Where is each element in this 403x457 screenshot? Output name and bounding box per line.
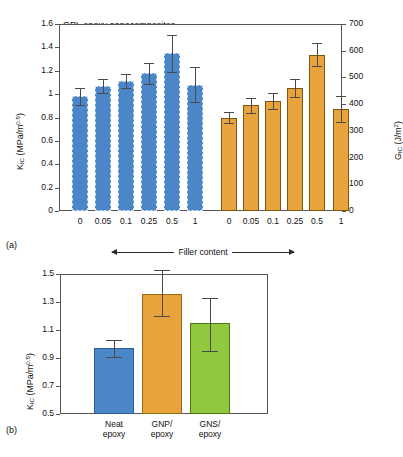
y-axis-tick-label: 0.7 xyxy=(20,381,54,390)
error-bar-cap-bottom xyxy=(190,102,200,103)
error-bar-cap-bottom xyxy=(75,105,85,106)
y2-axis-tick-label: 0 xyxy=(349,206,383,215)
chart-panel-a: GPL epoxy nanocomposites KIC (MPa/m0.5) … xyxy=(0,0,402,250)
error-bar-cap-top xyxy=(121,74,131,75)
error-bar-cap-top xyxy=(75,88,85,89)
filler-arrow-left-icon xyxy=(112,252,174,253)
bar-blue xyxy=(72,96,88,211)
error-bar-cap-top xyxy=(154,270,170,271)
error-bar-cap-top xyxy=(190,67,200,68)
y-axis-tick-label: 1.3 xyxy=(20,297,54,306)
y2-axis-label-tail: ) xyxy=(393,121,403,124)
bar-blue xyxy=(118,81,134,211)
error-bar-cap-bottom xyxy=(144,84,154,85)
y2-axis-tick-mark xyxy=(342,51,346,52)
x-axis-tick-label: GNS/epoxy xyxy=(186,420,234,440)
bar-orange xyxy=(309,55,325,211)
y-axis-tick-mark xyxy=(55,164,59,165)
error-bar-line xyxy=(114,340,115,357)
y-axis-tick-mark xyxy=(56,274,60,275)
bar-orange xyxy=(221,118,237,212)
error-bar-cap-bottom xyxy=(290,97,300,98)
filler-arrow-right-icon xyxy=(232,252,294,253)
y-axis-tick-mark xyxy=(55,211,59,212)
error-bar-line xyxy=(295,79,296,98)
error-bar-cap-bottom xyxy=(167,72,177,73)
y-axis-tick-label: 0.6 xyxy=(19,136,53,145)
filler-content-label: Filler content xyxy=(178,247,227,257)
y-axis-tick-label: 1 xyxy=(19,89,53,98)
y-axis-tick-label: 0.9 xyxy=(20,353,54,362)
chart-a-x-axis-label: Filler content xyxy=(78,247,328,257)
error-bar-cap-top xyxy=(98,79,108,80)
y-axis-tick-label: 1.1 xyxy=(20,325,54,334)
bar-blue xyxy=(187,85,203,211)
y2-axis-tick-mark xyxy=(342,211,346,212)
y-axis-tick-label: 0.8 xyxy=(19,113,53,122)
y-axis-tick-label: 0.2 xyxy=(19,183,53,192)
error-bar-line xyxy=(103,79,104,93)
error-bar-cap-bottom xyxy=(246,113,256,114)
bar-blue xyxy=(95,86,111,211)
y2-axis-tick-label: 700 xyxy=(349,19,383,28)
error-bar-cap-top xyxy=(167,35,177,36)
x-axis-tick-label-line: epoxy xyxy=(90,430,138,440)
y2-axis-tick-label: 500 xyxy=(349,72,383,81)
y2-axis-label-exponent: 2 xyxy=(392,124,399,127)
x-axis-tick-label-line: epoxy xyxy=(138,430,186,440)
y-axis-tick-mark xyxy=(55,94,59,95)
y-axis-tick-mark xyxy=(56,414,60,415)
error-bar-cap-top xyxy=(268,93,278,94)
x-axis-tick-label-line: epoxy xyxy=(186,430,234,440)
bar-orange xyxy=(287,88,303,211)
bar-blue xyxy=(164,53,180,211)
error-bar-line xyxy=(229,112,230,124)
y-axis-tick-mark xyxy=(55,188,59,189)
error-bar-cap-bottom xyxy=(98,93,108,94)
error-bar-line xyxy=(341,96,342,122)
y-axis-tick-mark xyxy=(56,302,60,303)
y2-axis-tick-label: 400 xyxy=(349,99,383,108)
x-axis-tick-label: GNP/epoxy xyxy=(138,420,186,440)
y2-axis-label-unit: (J/m xyxy=(393,127,403,147)
error-bar-line xyxy=(251,98,252,113)
error-bar-cap-top xyxy=(336,96,346,97)
x-axis-tick-label: Neatepoxy xyxy=(90,420,138,440)
error-bar-line xyxy=(126,74,127,88)
y2-axis-label-subscript: IC xyxy=(396,147,403,153)
y-axis-tick-label: 1.4 xyxy=(19,42,53,51)
error-bar-cap-bottom xyxy=(121,88,131,89)
x-axis-tick-label: 1 xyxy=(325,217,357,227)
b-y-axis-label-subscript: IC xyxy=(28,398,35,404)
y2-axis-tick-mark xyxy=(342,104,346,105)
chart-a-y2-axis-label: GIC (J/m2) xyxy=(392,121,403,160)
bar-neat-epoxy xyxy=(94,348,134,414)
y2-axis-tick-label: 300 xyxy=(349,126,383,135)
error-bar-cap-top xyxy=(202,298,218,299)
y2-axis-tick-mark xyxy=(342,24,346,25)
y-axis-tick-mark xyxy=(56,358,60,359)
bar-blue xyxy=(141,73,157,211)
error-bar-cap-bottom xyxy=(336,122,346,123)
error-bar-cap-bottom xyxy=(106,357,122,358)
error-bar-cap-top xyxy=(224,112,234,113)
error-bar-cap-top xyxy=(106,340,122,341)
y-axis-tick-mark xyxy=(55,24,59,25)
error-bar-line xyxy=(149,63,150,84)
y-axis-tick-mark xyxy=(55,47,59,48)
y-axis-tick-label: 1.6 xyxy=(19,19,53,28)
error-bar-line xyxy=(195,67,196,102)
error-bar-cap-top xyxy=(312,43,322,44)
y-axis-tick-mark xyxy=(55,141,59,142)
error-bar-line xyxy=(162,270,163,316)
error-bar-cap-bottom xyxy=(312,66,322,67)
y2-axis-tick-mark xyxy=(342,77,346,78)
error-bar-cap-top xyxy=(290,79,300,80)
error-bar-line xyxy=(273,93,274,109)
error-bar-cap-top xyxy=(144,63,154,64)
y-axis-tick-mark xyxy=(55,71,59,72)
bar-orange xyxy=(243,105,259,211)
error-bar-cap-bottom xyxy=(268,109,278,110)
error-bar-line xyxy=(172,35,173,72)
